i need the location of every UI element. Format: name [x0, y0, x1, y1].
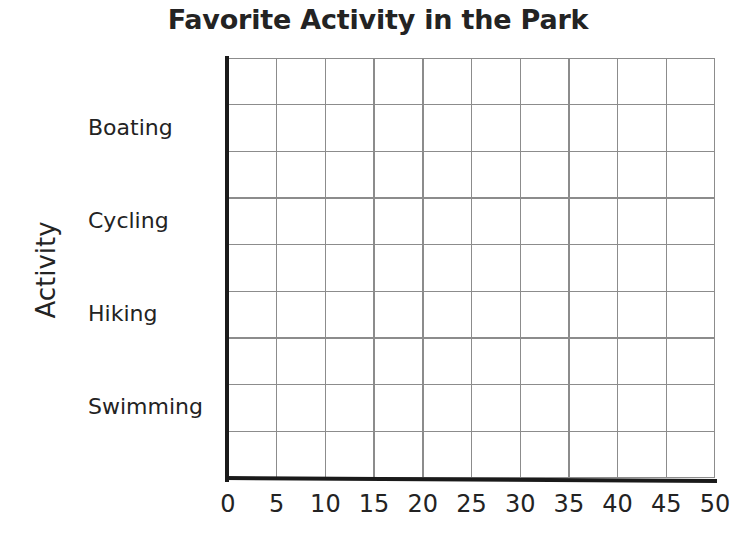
x-tick-label-20: 20: [408, 490, 439, 518]
category-label-cycling: Cycling: [88, 208, 169, 233]
x-tick-label-50: 50: [700, 490, 731, 518]
y-axis-title: Activity: [31, 221, 61, 318]
y-axis-line: [225, 56, 229, 482]
x-tick-label-25: 25: [456, 490, 487, 518]
category-label-swimming: Swimming: [88, 394, 203, 419]
x-tick-label-15: 15: [359, 490, 390, 518]
plot-area: [228, 58, 715, 478]
grid-lines: [228, 58, 715, 478]
x-tick-label-35: 35: [554, 490, 585, 518]
x-tick-label-40: 40: [602, 490, 633, 518]
x-tick-label-30: 30: [505, 490, 536, 518]
chart-title: Favorite Activity in the Park: [0, 4, 756, 35]
x-tick-label-10: 10: [310, 490, 341, 518]
x-tick-label-5: 5: [269, 490, 284, 518]
category-label-hiking: Hiking: [88, 301, 157, 326]
x-tick-label-0: 0: [220, 490, 235, 518]
bar-chart-worksheet: Favorite Activity in the Park Activity B…: [0, 0, 756, 534]
category-label-boating: Boating: [88, 115, 173, 140]
x-tick-label-45: 45: [651, 490, 682, 518]
